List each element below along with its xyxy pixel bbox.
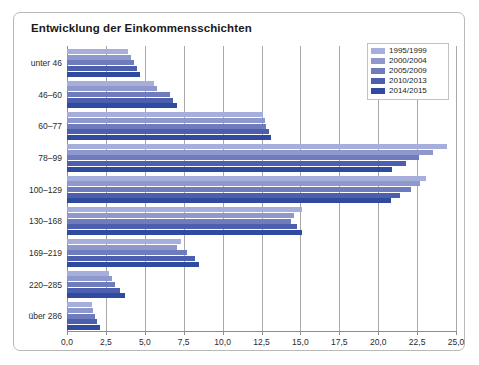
bar: [67, 325, 100, 330]
y-axis-category-label: 169–219: [29, 248, 62, 258]
bar: [67, 86, 157, 91]
bar: [67, 308, 93, 313]
bar: [67, 176, 426, 181]
bar: [67, 193, 400, 198]
bar: [67, 129, 269, 134]
x-axis-tick: [184, 331, 185, 335]
x-axis-tick-label: 17,5: [331, 337, 348, 347]
x-axis-tick: [67, 331, 68, 335]
legend-label: 2014/2015: [389, 86, 427, 95]
bar-group: [67, 112, 456, 139]
legend-item: 2000/2004: [371, 56, 445, 65]
y-axis-category-label: 78–99: [38, 153, 62, 163]
legend-item: 2005/2009: [371, 66, 445, 75]
bar: [67, 118, 265, 123]
bar: [67, 150, 433, 155]
bar: [67, 293, 125, 298]
x-axis-tick-label: 12,5: [253, 337, 270, 347]
bar-group: [67, 239, 456, 266]
x-axis-tick-label: 20,0: [370, 337, 387, 347]
x-axis-tick-label: 7,5: [178, 337, 190, 347]
bar: [67, 98, 173, 103]
x-axis-tick: [223, 331, 224, 335]
bar: [67, 187, 411, 192]
legend-label: 2010/2013: [389, 76, 427, 85]
x-axis-tick-label: 0,0: [61, 337, 73, 347]
y-axis-category-label: über 286: [28, 311, 62, 321]
bar-group: [67, 144, 456, 171]
y-axis-category-label: 100–129: [29, 185, 62, 195]
bar: [67, 161, 406, 166]
bar: [67, 282, 115, 287]
legend-item: 2010/2013: [371, 76, 445, 85]
x-axis-tick: [417, 331, 418, 335]
bar: [67, 213, 294, 218]
legend-label: 2005/2009: [389, 66, 427, 75]
y-axis-category-label: 130–168: [29, 216, 62, 226]
bar: [67, 167, 392, 172]
x-axis-tick: [378, 331, 379, 335]
legend: 1995/19992000/20042005/20092010/20132014…: [367, 43, 449, 100]
bar-group: [67, 302, 456, 329]
gridline: [456, 46, 457, 331]
legend-swatch: [371, 68, 385, 74]
bar: [67, 245, 177, 250]
bar: [67, 155, 419, 160]
bar-group: [67, 271, 456, 298]
x-axis-tick: [456, 331, 457, 335]
x-axis-tick: [106, 331, 107, 335]
y-axis-category-label: unter 46: [31, 58, 62, 68]
bar: [67, 256, 195, 261]
bar: [67, 92, 170, 97]
legend-swatch: [371, 48, 385, 54]
legend-item: 1995/1999: [371, 46, 445, 55]
legend-swatch: [371, 78, 385, 84]
bar: [67, 72, 140, 77]
x-axis-tick-label: 10,0: [214, 337, 231, 347]
bar: [67, 66, 137, 71]
x-axis-tick: [300, 331, 301, 335]
bar-group: [67, 207, 456, 234]
bar: [67, 49, 128, 54]
legend-swatch: [371, 58, 385, 64]
bar: [67, 144, 447, 149]
bar: [67, 55, 131, 60]
bar: [67, 276, 112, 281]
chart-screenshot: Entwicklung der Einkommensschichten unte…: [0, 0, 479, 365]
bar-group: [67, 176, 456, 203]
bar: [67, 288, 120, 293]
bar: [67, 198, 391, 203]
x-axis-tick: [339, 331, 340, 335]
bar: [67, 239, 181, 244]
x-axis-tick-label: 22,5: [409, 337, 426, 347]
bar: [67, 60, 134, 65]
bar: [67, 207, 302, 212]
x-axis-tick-label: 5,0: [139, 337, 151, 347]
legend-item: 2014/2015: [371, 86, 445, 95]
bar: [67, 219, 291, 224]
x-axis-tick-label: 15,0: [292, 337, 309, 347]
bar: [67, 181, 420, 186]
bar: [67, 271, 109, 276]
x-axis-tick-label: 2,5: [100, 337, 112, 347]
bar: [67, 302, 92, 307]
bar: [67, 262, 199, 267]
bar: [67, 230, 302, 235]
bar: [67, 314, 95, 319]
y-axis-category-label: 46–60: [38, 90, 62, 100]
x-axis-tick-label: 25,0: [448, 337, 465, 347]
y-axis-category-label: 60–77: [38, 121, 62, 131]
bar: [67, 124, 266, 129]
legend-label: 1995/1999: [389, 46, 427, 55]
legend-swatch: [371, 88, 385, 94]
page-title: Entwicklung der Einkommensschichten: [31, 22, 252, 34]
bar: [67, 319, 97, 324]
bar: [67, 103, 177, 108]
y-axis-category-label: 220–285: [29, 280, 62, 290]
bar: [67, 135, 271, 140]
y-axis-labels: unter 4646–6060–7778–99100–129130–168169…: [0, 46, 62, 331]
x-axis-tick: [262, 331, 263, 335]
x-axis-tick: [145, 331, 146, 335]
legend-label: 2000/2004: [389, 56, 427, 65]
bar: [67, 224, 297, 229]
